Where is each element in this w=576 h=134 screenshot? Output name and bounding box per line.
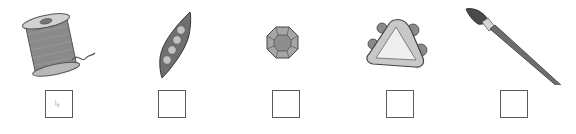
answer-checkbox-4[interactable]: [386, 90, 414, 118]
answer-checkbox-5[interactable]: [500, 90, 528, 118]
tambourine-icon: [345, 0, 455, 85]
thread-spool-icon: [0, 0, 110, 85]
gem-icon: [232, 0, 342, 85]
paintbrush-icon: [460, 0, 570, 85]
answer-checkbox-1[interactable]: ↳: [45, 90, 73, 118]
answer-checkbox-2[interactable]: [158, 90, 186, 118]
item-pea-pod: [120, 0, 230, 134]
pencil-mark: ↳: [53, 98, 61, 109]
answer-checkbox-3[interactable]: [272, 90, 300, 118]
item-thread-spool: ↳: [0, 0, 110, 134]
pea-pod-icon: [120, 0, 230, 85]
item-tambourine: [345, 0, 455, 134]
item-paintbrush: [460, 0, 570, 134]
item-gem: [232, 0, 342, 134]
